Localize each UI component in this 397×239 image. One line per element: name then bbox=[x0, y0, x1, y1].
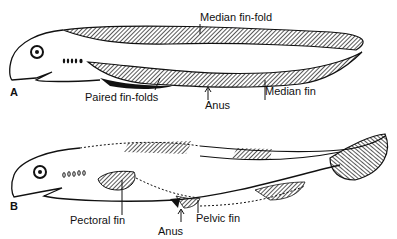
label-anus-a: Anus bbox=[205, 100, 230, 111]
panel-letter-a: A bbox=[10, 86, 18, 98]
gill-slits-icon-b bbox=[63, 171, 85, 178]
median-fin bbox=[88, 52, 362, 87]
label-pelvic-fin: Pelvic fin bbox=[196, 213, 240, 224]
label-anus-b: Anus bbox=[158, 226, 183, 237]
pectoral-fin bbox=[98, 171, 135, 190]
gill-slits-icon bbox=[63, 59, 83, 64]
larva-b bbox=[12, 134, 388, 222]
label-paired-fin-folds: Paired fin-folds bbox=[85, 92, 158, 103]
median-fin-fold bbox=[63, 26, 363, 50]
panel-letter-b: B bbox=[10, 200, 18, 212]
label-median-fin-fold: Median fin-fold bbox=[200, 12, 272, 23]
label-median-fin: Median fin bbox=[265, 86, 316, 97]
fin-origin-diagram bbox=[0, 0, 397, 239]
body-outline bbox=[10, 30, 100, 82]
tail-fin bbox=[330, 134, 387, 180]
label-pectoral-fin: Pectoral fin bbox=[70, 215, 125, 226]
